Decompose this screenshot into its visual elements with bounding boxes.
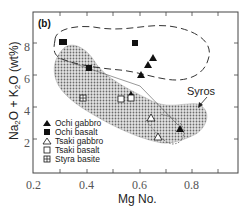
legend-icon-styra-basite [44, 156, 50, 162]
point-ochi-basalt [59, 39, 67, 45]
x-tick-label: 0.8 [184, 178, 199, 192]
point-tsaki-basalt [128, 95, 134, 101]
point-ochi-gabbro [149, 54, 157, 61]
point-ochi-gabbro [144, 61, 152, 68]
y-axis-title: Na2O + K2O (wt%) [7, 41, 22, 140]
legend-label: Styra basite [55, 154, 100, 164]
x-tick-label: 0.4 [79, 178, 94, 192]
legend-icon-ochi-basalt [44, 129, 50, 135]
legend-icon-ochi-gabbro [43, 120, 51, 126]
x-tick-label: 0.2 [26, 178, 41, 192]
y-tick-label: 8 [24, 40, 30, 54]
panel-label: (b) [38, 18, 51, 29]
legend-icon-tsaki-basalt [44, 147, 50, 153]
point-ochi-basalt [132, 40, 138, 46]
x-tick-label: 0.6 [132, 178, 147, 192]
x-axis-title: Mg No. [118, 192, 157, 206]
y-tick-label: 4 [24, 104, 30, 118]
point-ochi-basalt [86, 65, 92, 71]
point-ochi-gabbro [137, 71, 145, 78]
y-tick-label: 2 [24, 136, 30, 150]
point-tsaki-basalt [118, 96, 124, 102]
point-styra-basite [80, 95, 86, 101]
syros-label: Syros [187, 85, 216, 97]
chart: Syros 0.2 0.4 0.6 0.8 2 4 6 8 Mg No. Na2… [0, 0, 248, 206]
y-tick-label: 6 [24, 72, 30, 86]
legend-icon-tsaki-gabbro [43, 138, 51, 144]
legend: Ochi gabbro Ochi basalt Tsaki gabbro Tsa… [43, 118, 103, 164]
